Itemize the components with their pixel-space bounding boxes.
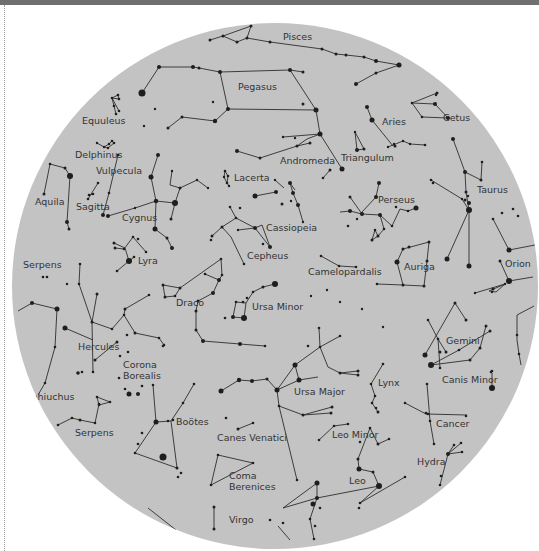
star	[465, 319, 468, 322]
star	[127, 351, 130, 354]
star	[404, 476, 407, 479]
constellation-label-leo: Leo	[349, 475, 366, 486]
star	[339, 335, 342, 338]
star	[397, 63, 402, 68]
star	[421, 116, 424, 119]
star	[116, 270, 119, 273]
star	[204, 273, 207, 276]
constellation-label-sagitta: Sagitta	[76, 201, 110, 212]
star	[219, 389, 224, 394]
star	[156, 153, 160, 157]
star	[388, 438, 391, 441]
star	[501, 212, 504, 215]
star	[377, 411, 380, 414]
star	[98, 403, 101, 406]
star	[382, 326, 384, 328]
star	[489, 385, 495, 391]
star	[360, 212, 364, 216]
star	[517, 215, 520, 218]
star	[213, 528, 216, 531]
star	[302, 103, 305, 106]
star	[160, 454, 167, 461]
star	[357, 370, 360, 373]
star	[262, 243, 265, 246]
star	[282, 522, 285, 525]
star	[96, 396, 99, 399]
constellation-label-ursa-minor: Ursa Minor	[252, 301, 303, 312]
star	[88, 194, 91, 197]
star	[387, 146, 389, 148]
star	[126, 258, 132, 264]
star	[296, 479, 299, 482]
star	[79, 419, 82, 422]
star	[315, 481, 320, 486]
star	[218, 70, 222, 74]
star	[424, 144, 427, 147]
star	[235, 149, 239, 153]
star	[57, 424, 60, 427]
star	[171, 170, 173, 172]
star	[217, 454, 220, 457]
star	[318, 132, 323, 137]
star	[118, 377, 121, 380]
star	[518, 353, 521, 356]
star	[423, 285, 426, 288]
star	[506, 278, 512, 284]
star	[158, 337, 161, 340]
star	[485, 325, 488, 328]
star	[179, 287, 182, 290]
star	[307, 345, 310, 348]
star	[377, 235, 380, 238]
star	[375, 72, 378, 75]
star	[210, 484, 213, 487]
star	[354, 131, 356, 133]
star	[113, 242, 116, 245]
star	[139, 90, 146, 97]
star	[132, 236, 135, 239]
star	[430, 179, 433, 182]
star	[64, 167, 67, 170]
star	[201, 339, 205, 343]
constellation-label-cetus: Cetus	[443, 112, 470, 123]
star	[170, 246, 174, 250]
star	[382, 363, 385, 366]
star	[402, 248, 405, 251]
star	[252, 462, 255, 465]
star	[322, 177, 325, 180]
constellation-label-perseus: Perseus	[378, 194, 415, 205]
star	[378, 213, 382, 217]
star	[375, 407, 378, 410]
star	[177, 476, 180, 479]
star	[111, 328, 114, 331]
star	[164, 296, 167, 299]
star	[76, 371, 80, 375]
star	[123, 248, 126, 251]
star	[437, 338, 440, 341]
star	[347, 423, 350, 426]
star	[445, 257, 450, 262]
star	[428, 362, 434, 368]
star	[92, 371, 95, 374]
star	[152, 384, 155, 387]
constellation-label-lyra: Lyra	[138, 255, 158, 266]
star-chart: PiscesPegasusEquuleusDelphinusVulpeculaS…	[0, 0, 539, 551]
star	[427, 319, 430, 322]
star	[243, 263, 246, 266]
star	[348, 209, 352, 213]
star	[326, 289, 328, 291]
star	[402, 140, 404, 142]
star	[374, 59, 378, 63]
star	[237, 428, 240, 431]
star	[354, 82, 358, 86]
star	[335, 53, 338, 56]
star	[349, 196, 352, 199]
star	[278, 405, 281, 408]
star	[359, 441, 362, 444]
star	[290, 200, 292, 202]
star	[347, 225, 350, 228]
constellation-label-cygnus: Cygnus	[122, 212, 157, 223]
star	[238, 342, 242, 346]
star	[329, 169, 332, 172]
star	[181, 116, 184, 119]
star	[55, 307, 60, 312]
